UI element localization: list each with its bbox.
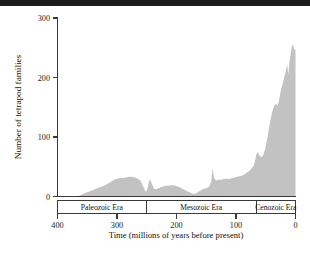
x-tick-label-300: 300: [111, 221, 123, 230]
x-tick-label-0: 0: [293, 221, 297, 230]
x-tick-label-400: 400: [51, 221, 63, 230]
x-tick-label-200: 200: [170, 221, 182, 230]
era-band-label-mesozoic-era: Mesozoic Era: [180, 203, 223, 212]
era-band-label-paleozoic-era: Paleozoic Era: [81, 203, 124, 212]
y-axis-ticks: 0100200300: [38, 14, 58, 202]
x-tick-label-100: 100: [230, 221, 242, 230]
y-tick-label-200: 200: [38, 74, 50, 83]
y-tick-label-0: 0: [46, 193, 50, 202]
x-axis-ticks: 4003002001000: [51, 214, 297, 231]
y-axis-title: Number of tetrapod families: [13, 54, 23, 159]
area-series-tetrapod-families: [58, 44, 296, 196]
era-band-label-cenozoic-era: Cenozoic Era: [255, 203, 297, 212]
tetrapod-diversity-chart: 0100200300 4003002001000 Paleozoic EraMe…: [0, 0, 310, 259]
figure-container: 0100200300 4003002001000 Paleozoic EraMe…: [0, 0, 310, 259]
y-tick-label-300: 300: [38, 14, 50, 23]
x-axis-title: Time (millions of years before present): [109, 230, 244, 240]
y-tick-label-100: 100: [38, 133, 50, 142]
era-band-group: Paleozoic EraMesozoic EraCenozoic Era: [58, 201, 298, 214]
